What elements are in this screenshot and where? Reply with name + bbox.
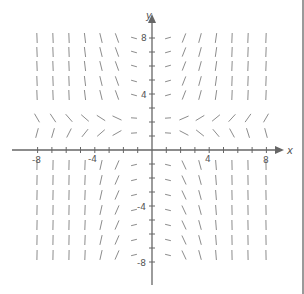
slope-segment [216,205,217,215]
slope-segment [100,220,102,230]
x-tick-label-neg4: -4 [88,154,97,164]
slope-segment [100,90,102,100]
slope-segment [265,128,268,138]
slope-segment [215,90,216,100]
slope-segment [165,51,171,53]
slope-segment [115,47,118,56]
slope-segment [215,61,216,71]
slope-segment [182,236,186,245]
slope-segment [115,250,119,259]
slope-segment [196,115,205,120]
slope-segment [216,190,217,200]
slope-segment [100,160,102,170]
y-tick-label-neg4: -4 [137,202,146,212]
slope-segment [52,128,55,138]
slope-segment [100,33,102,43]
slope-segment [199,33,202,43]
slope-segment [215,47,216,57]
slope-segment [199,205,202,215]
slope-segment [182,90,186,99]
slope-segment [216,160,217,170]
slope-segment [165,194,171,195]
x-axis-arrow-icon [275,146,284,154]
x-tick-label-8: 8 [263,155,269,165]
slope-segment [84,33,85,43]
slope-segment [82,129,88,137]
slope-segment [97,115,105,120]
slope-segment [213,129,219,137]
slope-segment [165,179,171,180]
slope-segment [199,250,202,260]
slope-segment [115,61,118,70]
slope-segment [100,235,102,245]
slope-segment [131,179,137,180]
slope-segment [182,206,186,215]
slope-segment [199,175,202,185]
slope-segment [115,90,118,99]
slope-segment [100,61,102,71]
y-axis-label: y [145,10,153,21]
slope-segment [84,90,85,100]
slope-segment [115,76,118,85]
slope-segment [199,90,202,100]
slope-segment [216,220,217,230]
slope-segment [97,130,105,137]
x-tick-label-4: 4 [205,154,211,164]
slope-segment [165,239,171,240]
slope-segment [230,129,235,138]
slope-segment [100,250,102,260]
slope-segment [84,76,85,86]
slope-segment [165,224,171,225]
x-tick-label-neg8: -8 [32,155,41,165]
y-tick-label-4: 4 [141,90,147,100]
slope-segment [50,114,56,122]
slope-segment [115,175,119,184]
slope-segment [245,114,251,122]
slope-segment [216,250,217,260]
y-tick-label-8: 8 [141,33,147,43]
slope-segment [165,65,171,67]
slope-segment [180,131,189,136]
slope-segment [182,221,186,230]
slope-field-plot: x y -8 -4 4 8 8 4 -4 -8 [0,0,304,294]
slope-segment [216,175,217,185]
slope-segment [35,114,40,123]
slope-segment [115,220,119,229]
slope-segment [131,164,137,165]
slope-segment [66,114,73,122]
slope-segment [182,176,186,185]
slope-segment [131,224,137,225]
slope-segment [131,65,137,67]
slope-segment [182,191,186,200]
slope-segment [165,254,171,255]
slope-segment [179,116,188,120]
slope-segment [36,128,39,138]
slope-segment [199,235,202,245]
slope-segment [84,47,85,57]
slope-segment [215,33,216,43]
slope-segment [115,190,119,199]
slope-segment [264,114,269,123]
slope-segment [215,76,216,86]
slope-segment [131,37,137,39]
slope-segment [131,80,137,82]
slope-segment [182,161,186,170]
slope-segment [131,254,137,255]
slope-segment [182,76,186,85]
slope-segment [182,47,186,56]
slope-segment [182,61,186,70]
slope-segment [81,115,89,122]
slope-segment [165,209,171,210]
slope-segment [199,220,202,230]
slope-segment [199,47,202,57]
slope-segment [182,33,186,42]
slope-segment [100,175,102,185]
slope-segment [115,160,119,169]
slope-segment [100,47,102,57]
y-tick-label-neg8: -8 [137,258,146,268]
slope-segment [165,164,171,165]
slope-segment [196,130,204,136]
slope-segment [131,94,137,96]
slope-segment [212,115,220,121]
slope-segment [115,33,118,42]
